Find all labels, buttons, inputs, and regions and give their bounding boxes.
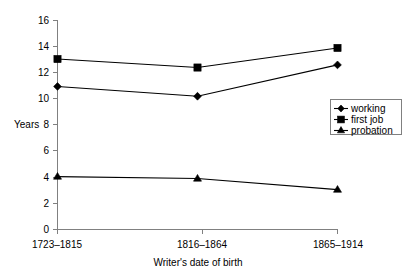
- data-point-probation-0: [54, 173, 62, 180]
- y-axis-title: Years: [14, 119, 39, 130]
- y-tick-label-16: 16: [38, 15, 50, 26]
- x-axis-title: Writer's date of birth: [154, 257, 243, 268]
- x-tick-label-1: 1723–1815: [32, 239, 82, 250]
- y-tick-label-2: 2: [43, 198, 49, 209]
- y-tick-label-4: 4: [43, 172, 49, 183]
- y-tick-label-12: 12: [38, 67, 50, 78]
- legend-label-probation: probation: [351, 125, 393, 136]
- y-tick-label-10: 10: [38, 93, 50, 104]
- series-layer: [54, 44, 342, 192]
- data-point-working-2: [334, 61, 342, 69]
- x-tick-labels: 1723–1815 1816–1864 1865–1914: [32, 239, 363, 250]
- data-point-probation-1: [194, 174, 202, 181]
- data-point-working-0: [54, 83, 62, 91]
- data-point-first-job-0: [54, 55, 61, 62]
- legend-label-working: working: [350, 103, 385, 114]
- y-tick-label-8: 8: [43, 119, 49, 130]
- y-tick-label-6: 6: [43, 145, 49, 156]
- data-point-working-1: [194, 92, 202, 100]
- series-probation: [54, 173, 342, 193]
- data-point-first-job-2: [334, 44, 341, 51]
- legend-marker-square-icon: [338, 116, 345, 123]
- series-first-job: [54, 44, 341, 71]
- data-point-first-job-1: [194, 64, 201, 71]
- line-chart-figure: 16 14 12 10 8 6 4 2 0 Years 1723–1815 18…: [0, 0, 410, 270]
- y-axis-ticks: [53, 21, 58, 230]
- y-tick-labels: 16 14 12 10 8 6 4 2 0: [38, 15, 50, 235]
- chart-legend: working first job probation: [331, 100, 402, 137]
- x-tick-label-3: 1865–1914: [313, 239, 363, 250]
- x-tick-label-2: 1816–1864: [177, 239, 227, 250]
- x-axis-ticks: [58, 230, 338, 235]
- y-tick-label-14: 14: [38, 41, 50, 52]
- y-tick-label-0: 0: [43, 224, 49, 235]
- chart-canvas: 16 14 12 10 8 6 4 2 0 Years 1723–1815 18…: [0, 0, 410, 270]
- legend-label-first-job: first job: [351, 114, 384, 125]
